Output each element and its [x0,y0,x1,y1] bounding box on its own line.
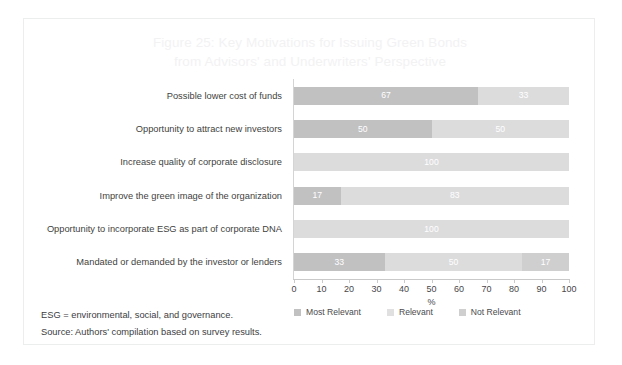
figure-title: Figure 25: Key Motivations for Issuing G… [24,33,596,71]
legend-item-most-relevant[interactable]: Most Relevant [294,307,361,317]
stacked-bar[interactable]: 100 [294,220,569,238]
bar-row: Opportunity to attract new investors5050 [24,112,596,145]
bar-value-label: 17 [313,191,323,200]
x-axis-tick [404,279,405,283]
bar-value-label: 33 [335,258,345,267]
legend-label-not-relevant: Not Relevant [471,307,521,317]
figure-title-line-2: from Advisors' and Underwriters' Perspec… [24,52,596,71]
figure-title-line-1: Figure 25: Key Motivations for Issuing G… [24,33,596,52]
x-axis-tick [322,279,323,283]
category-label: Improve the green image of the organizat… [24,191,282,201]
bar-segment[interactable]: 17 [522,253,569,271]
bar-value-label: 50 [495,125,505,134]
legend-swatch-icon-not-relevant [459,309,466,316]
x-axis-tick-label: 70 [481,284,491,294]
note-source: Source: Authors' compilation based on su… [41,324,262,341]
stacked-bar[interactable]: 335017 [294,253,569,271]
bar-segment[interactable]: 100 [294,153,569,171]
legend-label-most-relevant: Most Relevant [306,307,361,317]
bar-value-label: 100 [424,225,438,234]
bar-segment[interactable]: 100 [294,220,569,238]
x-axis-tick-label: 90 [536,284,546,294]
bar-value-label: 33 [519,91,529,100]
x-axis-tick-label: 10 [316,284,326,294]
legend-label-relevant: Relevant [399,307,433,317]
x-axis-tick-label: 40 [399,284,409,294]
x-axis-tick [569,279,570,283]
figure-notes: ESG = environmental, social, and governa… [41,307,262,340]
legend-swatch-icon-relevant [387,309,394,316]
stacked-bar[interactable]: 5050 [294,120,569,138]
bar-row: Increase quality of corporate disclosure… [24,146,596,179]
stacked-bar[interactable]: 6733 [294,87,569,105]
bar-row: Mandated or demanded by the investor or … [24,246,596,279]
x-axis-tick [377,279,378,283]
chart-legend: Most Relevant Relevant Not Relevant [294,307,584,317]
category-label: Mandated or demanded by the investor or … [24,257,282,267]
category-label: Opportunity to incorporate ESG as part o… [24,224,282,234]
x-axis-tick-label: 0 [291,284,296,294]
x-axis-title: % [294,297,569,307]
legend-swatch-icon-most-relevant [294,309,301,316]
bar-value-label: 83 [450,191,460,200]
x-axis-tick [487,279,488,283]
x-axis-tick [514,279,515,283]
category-label: Increase quality of corporate disclosure [24,157,282,167]
x-axis-tick-label: 100 [561,284,576,294]
x-axis-tick-label: 50 [426,284,436,294]
bar-value-label: 67 [381,91,391,100]
x-axis-tick-label: 60 [454,284,464,294]
x-axis-tick [349,279,350,283]
x-axis-tick-label: 80 [509,284,519,294]
figure-container: Figure 25: Key Motivations for Issuing G… [23,18,595,345]
bar-segment[interactable]: 50 [385,253,523,271]
bar-value-label: 100 [424,158,438,167]
bar-segment[interactable]: 33 [294,253,385,271]
category-label: Possible lower cost of funds [24,91,282,101]
x-axis-tick [294,279,295,283]
note-abbreviation: ESG = environmental, social, and governa… [41,307,262,324]
bar-row: Opportunity to incorporate ESG as part o… [24,212,596,245]
bar-value-label: 50 [358,125,368,134]
bar-row: Possible lower cost of funds6733 [24,79,596,112]
bar-value-label: 17 [541,258,551,267]
legend-item-relevant[interactable]: Relevant [387,307,433,317]
bar-row: Improve the green image of the organizat… [24,179,596,212]
bar-segment[interactable]: 83 [341,187,569,205]
stacked-bar[interactable]: 1783 [294,187,569,205]
bar-value-label: 50 [449,258,459,267]
x-axis-tick [542,279,543,283]
x-axis-tick-label: 30 [371,284,381,294]
x-axis-tick-label: 20 [344,284,354,294]
category-label: Opportunity to attract new investors [24,124,282,134]
x-axis-tick [432,279,433,283]
bar-segment[interactable]: 17 [294,187,341,205]
bar-segment[interactable]: 67 [294,87,478,105]
bar-segment[interactable]: 50 [294,120,432,138]
chart-plot-area: Possible lower cost of funds6733Opportun… [24,79,596,279]
legend-item-not-relevant[interactable]: Not Relevant [459,307,521,317]
x-axis-tick [459,279,460,283]
bar-segment[interactable]: 50 [432,120,570,138]
stacked-bar[interactable]: 100 [294,153,569,171]
bar-segment[interactable]: 33 [478,87,569,105]
